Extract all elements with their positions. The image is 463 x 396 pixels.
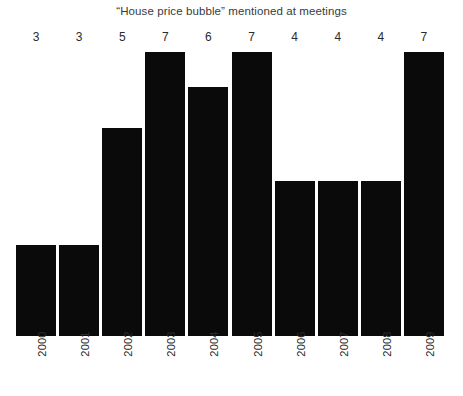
x-tick: 2008 <box>361 336 401 396</box>
chart-title: “House price bubble” mentioned at meetin… <box>0 5 463 17</box>
bar-value-label: 5 <box>102 28 142 47</box>
x-tick-label: 2002 <box>122 331 134 356</box>
x-tick-label: 2005 <box>252 331 264 356</box>
bar-column: 6 <box>188 28 228 336</box>
x-tick: 2003 <box>145 336 185 396</box>
bar <box>318 181 358 336</box>
x-tick: 2004 <box>188 336 228 396</box>
bar-column: 5 <box>102 28 142 336</box>
bar-value-label: 6 <box>188 28 228 47</box>
x-tick-label: 2003 <box>165 331 177 356</box>
x-tick: 2002 <box>102 336 142 396</box>
x-tick-label: 2007 <box>338 331 350 356</box>
bar-chart-figure: “House price bubble” mentioned at meetin… <box>0 0 463 396</box>
bar-value-label: 4 <box>275 28 315 47</box>
bar-column: 4 <box>361 28 401 336</box>
x-axis: 2000200120022003200420052006200720082009 <box>16 336 447 396</box>
x-tick-label: 2009 <box>424 331 436 356</box>
bar <box>145 52 185 336</box>
x-tick-label: 2004 <box>208 331 220 356</box>
bar-value-label: 3 <box>16 28 56 47</box>
bar <box>59 245 99 336</box>
x-tick: 2009 <box>404 336 444 396</box>
x-tick-label: 2006 <box>295 331 307 356</box>
x-tick-label: 2008 <box>381 331 393 356</box>
x-tick: 2007 <box>318 336 358 396</box>
bar <box>102 128 142 336</box>
bar <box>232 52 272 336</box>
x-tick-label: 2001 <box>79 331 91 356</box>
bar-value-label: 4 <box>361 28 401 47</box>
x-tick: 2006 <box>275 336 315 396</box>
x-tick: 2005 <box>232 336 272 396</box>
bar-column: 3 <box>16 28 56 336</box>
bar-column: 7 <box>404 28 444 336</box>
bar-column: 3 <box>59 28 99 336</box>
bar <box>404 52 444 336</box>
bar-column: 7 <box>145 28 185 336</box>
bar-column: 7 <box>232 28 272 336</box>
bar-column: 4 <box>318 28 358 336</box>
x-tick-label: 2000 <box>36 331 48 356</box>
bar <box>188 87 228 336</box>
bar-value-label: 4 <box>318 28 358 47</box>
bar <box>361 181 401 336</box>
bar <box>16 245 56 336</box>
plot-area: 3357674447 <box>16 28 447 336</box>
bar <box>275 181 315 336</box>
bar-column: 4 <box>275 28 315 336</box>
bar-value-label: 7 <box>404 28 444 47</box>
x-tick: 2001 <box>59 336 99 396</box>
bar-value-label: 3 <box>59 28 99 47</box>
x-tick: 2000 <box>16 336 56 396</box>
bar-value-label: 7 <box>145 28 185 47</box>
bar-value-label: 7 <box>232 28 272 47</box>
